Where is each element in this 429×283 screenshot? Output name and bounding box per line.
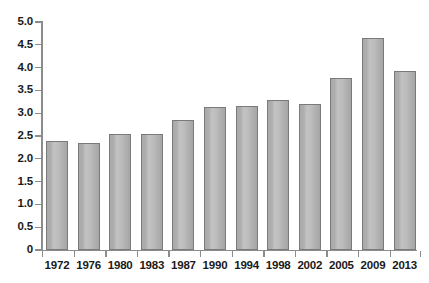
y-axis-tick-label: 0.5: [1, 220, 33, 232]
y-axis-tick: [35, 90, 41, 91]
bar-chart: 00.51.01.52.02.53.03.54.04.55.0 19721976…: [0, 0, 429, 283]
y-axis-tick: [35, 204, 41, 205]
x-axis-tick: [105, 251, 106, 257]
y-axis-tick-label: 0: [1, 243, 33, 255]
x-axis-tick: [295, 251, 296, 257]
bar: [109, 134, 131, 250]
bar: [236, 106, 258, 250]
y-axis-tick-label: 1.5: [1, 175, 33, 187]
bar: [141, 134, 163, 250]
x-axis-tick: [42, 251, 43, 257]
bar: [394, 71, 416, 250]
y-axis-tick-label: 1.0: [1, 197, 33, 209]
bar: [362, 38, 384, 250]
y-axis-tick-label: 2.5: [1, 129, 33, 141]
y-axis-tick: [35, 44, 41, 45]
plot-area: [42, 22, 416, 250]
bar: [267, 100, 289, 250]
y-axis-tick-label: 4.5: [1, 38, 33, 50]
y-axis-tick: [35, 158, 41, 159]
x-axis-tick: [358, 251, 359, 257]
y-axis-tick-label: 3.0: [1, 106, 33, 118]
x-axis-tick: [200, 251, 201, 257]
x-axis-tick: [390, 251, 391, 257]
bar: [299, 104, 321, 250]
y-axis-tick-label: 2.0: [1, 152, 33, 164]
y-axis-tick: [35, 135, 41, 136]
x-axis-tick-label: 2013: [385, 259, 425, 271]
bar: [172, 120, 194, 250]
bar: [330, 78, 352, 250]
bar: [78, 143, 100, 250]
y-axis-tick: [35, 113, 41, 114]
y-axis-tick-label: 4.0: [1, 61, 33, 73]
x-axis-tick: [74, 251, 75, 257]
y-axis-tick: [35, 181, 41, 182]
x-axis-tick: [326, 251, 327, 257]
y-axis-tick: [35, 249, 41, 250]
y-axis-tick: [35, 67, 41, 68]
x-axis-tick: [232, 251, 233, 257]
y-axis-tick: [35, 227, 41, 228]
x-axis-tick: [137, 251, 138, 257]
bar: [204, 107, 226, 250]
x-axis-tick: [420, 251, 421, 257]
bar: [46, 141, 68, 250]
x-axis-tick: [263, 251, 264, 257]
x-axis-tick: [168, 251, 169, 257]
y-axis-tick-label: 3.5: [1, 83, 33, 95]
y-axis-tick-label: 5.0: [1, 15, 33, 27]
y-axis-tick: [35, 21, 41, 22]
